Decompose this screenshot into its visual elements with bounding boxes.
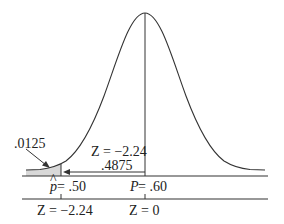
z-left-label: Z = −2.24	[37, 203, 93, 218]
tail-pointer-shaft	[26, 149, 46, 165]
normal-curve-diagram: .0125 Z = −2.24 .4875 p ^ = .50 P = .60 …	[0, 0, 284, 224]
z-center-label: Z = 0	[129, 203, 159, 218]
p-hat-label: p ^ = .50	[49, 172, 86, 194]
p-hat-value: = .50	[57, 179, 86, 194]
p-population-label: P = .60	[129, 179, 167, 194]
z-cutoff-label: Z = −2.24	[91, 144, 147, 159]
p-value: = .60	[138, 179, 167, 194]
hat-accent: ^	[50, 172, 57, 187]
tail-area-label: .0125	[14, 136, 46, 151]
area-arrow-head	[63, 169, 70, 175]
center-area-label: .4875	[101, 158, 133, 173]
tail-pointer-head	[42, 161, 50, 168]
